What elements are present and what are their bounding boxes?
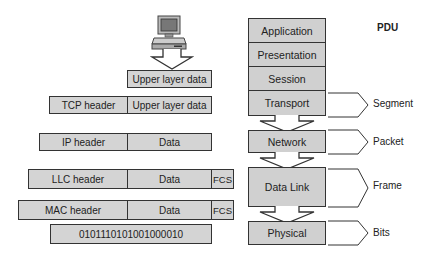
layer-transport: Transport <box>248 90 326 116</box>
bits-row: 0101110101001000010 <box>50 224 212 244</box>
layer-physical: Physical <box>248 221 326 245</box>
layer-label: Application <box>261 25 312 37</box>
bits-label: 0101110101001000010 <box>79 229 183 240</box>
down-arrow-icon <box>150 48 194 70</box>
layer-label: Session <box>268 73 305 85</box>
ip-packet-row: IP header Data <box>39 133 212 151</box>
pdu-frame: Frame <box>373 180 402 191</box>
mac-header-label: MAC header <box>45 205 101 216</box>
bracket-icon <box>328 220 370 246</box>
layer-label: Data Link <box>265 181 309 193</box>
layer-presentation: Presentation <box>248 42 326 67</box>
tcp-segment-row: TCP header Upper layer data <box>49 96 212 114</box>
bracket-icon <box>328 129 370 155</box>
llc-frame-row: LLC header Data FCS <box>28 169 234 189</box>
ip-header-label: IP header <box>62 137 105 148</box>
ip-header-cell: IP header <box>40 134 128 150</box>
layer-label: Transport <box>265 97 310 109</box>
data-label: Data <box>159 174 180 185</box>
fcs-cell: FCS <box>212 201 233 219</box>
fcs-label: FCS <box>213 205 232 216</box>
upper-layer-data-cell: Upper layer data <box>128 97 211 113</box>
mac-header-cell: MAC header <box>19 201 128 219</box>
layer-label: Physical <box>267 227 306 239</box>
llc-header-label: LLC header <box>52 174 104 185</box>
upper-layer-data-label: Upper layer data <box>133 100 207 111</box>
layer-data-link: Data Link <box>248 167 326 207</box>
data-cell: Data <box>128 134 211 150</box>
pdu-segment: Segment <box>373 98 413 109</box>
upper-layer-data-row: Upper layer data <box>127 70 212 88</box>
tcp-header-cell: TCP header <box>50 97 128 113</box>
layer-label: Presentation <box>258 49 317 61</box>
data-label: Data <box>159 205 180 216</box>
data-label: Data <box>159 137 180 148</box>
fcs-cell: FCS <box>212 170 233 188</box>
upper-layer-data-label: Upper layer data <box>133 74 207 85</box>
pdu-packet: Packet <box>373 136 404 147</box>
pdu-title: PDU <box>377 22 398 33</box>
tcp-header-label: TCP header <box>62 100 116 111</box>
llc-header-cell: LLC header <box>29 170 128 188</box>
fcs-label: FCS <box>213 174 232 185</box>
mac-frame-row: MAC header Data FCS <box>18 200 234 220</box>
layer-label: Network <box>268 136 307 148</box>
layer-network: Network <box>248 130 326 153</box>
layer-application: Application <box>248 18 326 43</box>
data-cell: Data <box>128 201 212 219</box>
pdu-bits: Bits <box>373 227 390 238</box>
layer-session: Session <box>248 66 326 91</box>
data-cell: Data <box>128 170 212 188</box>
bracket-icon <box>328 168 370 208</box>
bracket-icon <box>328 92 370 118</box>
